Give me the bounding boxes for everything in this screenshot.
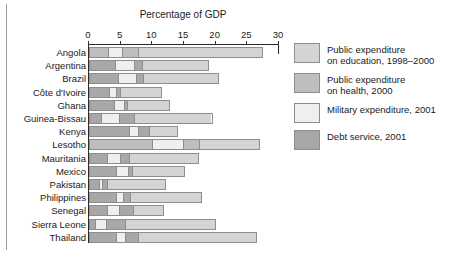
- stacked-bar: [89, 100, 170, 111]
- x-tick-mark-10: [151, 41, 152, 45]
- stacked-bar: [89, 60, 209, 71]
- bar-segment-debt: [90, 154, 108, 163]
- x-tick-mark-0: [88, 41, 89, 45]
- category-label-argentina: Argentina: [0, 60, 86, 71]
- bar-segment-health: [184, 140, 200, 149]
- x-tick-label-30: 30: [273, 29, 284, 40]
- bar-segment-debt: [90, 101, 115, 110]
- bar-segment-debt: [90, 74, 119, 83]
- bar-segment-debt: [90, 193, 117, 202]
- bar-segment-debt: [124, 193, 131, 202]
- bar-segment-debt: [90, 167, 117, 176]
- stacked-bar: [89, 87, 162, 98]
- bar-segment-education: [200, 140, 259, 149]
- x-tick-mark-5: [120, 41, 121, 45]
- category-label-sierra-leone: Sierra Leone: [0, 219, 86, 230]
- legend-item-military: Military expenditure, 2001: [294, 103, 454, 123]
- stacked-bar: [89, 192, 202, 203]
- category-label-kenya: Kenya: [0, 126, 86, 137]
- bar-segment-military: [117, 167, 129, 176]
- bar-segment-education: [143, 61, 208, 70]
- bar-segment-military: [108, 206, 119, 215]
- legend-swatch-education: [294, 43, 320, 63]
- bar-segment-military: [102, 114, 119, 123]
- bar-segment-debt: [126, 233, 139, 242]
- bar-segment-education: [139, 233, 255, 242]
- stacked-bar: [89, 113, 213, 124]
- stacked-bar: [89, 153, 199, 164]
- legend-swatch-military: [294, 103, 320, 123]
- category-label-c-te-d-ivoire: Côte d'Ivoire: [0, 87, 86, 98]
- chart-legend: Public expenditure on education, 1998–20…: [294, 43, 454, 157]
- category-label-guinea-bissau: Guinea-Bissau: [0, 113, 86, 124]
- bar-segment-military: [130, 127, 139, 136]
- legend-item-health: Public expenditure on health, 2000: [294, 73, 454, 96]
- bar-row: Senegal: [0, 204, 457, 217]
- stacked-bar: [89, 219, 216, 230]
- bar-segment-health: [90, 48, 109, 57]
- bar-row: Mexico: [0, 165, 457, 178]
- bar-segment-military: [96, 220, 107, 229]
- x-tick-label-15: 15: [178, 29, 189, 40]
- bar-segment-education: [134, 206, 164, 215]
- category-label-angola: Angola: [0, 47, 86, 58]
- bar-segment-debt: [90, 206, 108, 215]
- category-label-mexico: Mexico: [0, 166, 86, 177]
- stacked-bar: [89, 47, 263, 58]
- bar-segment-debt: [120, 114, 136, 123]
- stacked-bar: [89, 179, 166, 190]
- bar-segment-military: [117, 233, 126, 242]
- category-label-lesotho: Lesotho: [0, 139, 86, 150]
- bar-segment-education: [135, 114, 211, 123]
- stacked-bar: [89, 139, 260, 150]
- bar-segment-education: [128, 101, 169, 110]
- bar-row: Thailand: [0, 231, 457, 244]
- bar-segment-military: [153, 140, 184, 149]
- legend-swatch-health: [294, 73, 320, 93]
- bar-segment-education: [139, 48, 262, 57]
- bar-segment-education: [126, 220, 215, 229]
- x-tick-mark-20: [215, 41, 216, 45]
- bar-segment-debt: [90, 114, 102, 123]
- legend-label-debt: Debt service, 2001: [327, 130, 406, 142]
- legend-item-education: Public expenditure on education, 1998–20…: [294, 43, 454, 66]
- bar-segment-debt: [135, 61, 143, 70]
- x-tick-mark-25: [246, 41, 247, 45]
- bar-segment-education: [133, 167, 184, 176]
- stacked-bar: [89, 73, 219, 84]
- legend-item-debt: Debt service, 2001: [294, 130, 454, 150]
- stacked-bar: [89, 126, 178, 137]
- bar-segment-debt: [90, 61, 116, 70]
- legend-label-health: Public expenditure on health, 2000: [327, 73, 405, 96]
- bar-segment-debt: [121, 154, 130, 163]
- bar-segment-education: [130, 154, 198, 163]
- bar-segment-education: [144, 74, 218, 83]
- category-label-mauritania: Mauritania: [0, 153, 86, 164]
- bar-segment-education: [150, 127, 177, 136]
- category-label-philippines: Philippines: [0, 192, 86, 203]
- bar-segment-debt: [139, 127, 150, 136]
- bar-row: Philippines: [0, 191, 457, 204]
- x-tick-label-20: 20: [209, 29, 220, 40]
- legend-swatch-debt: [294, 130, 320, 150]
- bar-segment-debt: [90, 88, 110, 97]
- category-label-senegal: Senegal: [0, 205, 86, 216]
- bar-row: Sierra Leone: [0, 218, 457, 231]
- category-label-ghana: Ghana: [0, 100, 86, 111]
- category-label-pakistan: Pakistan: [0, 179, 86, 190]
- x-tick-label-5: 5: [117, 29, 122, 40]
- bar-segment-debt: [90, 180, 100, 189]
- bar-segment-military: [110, 88, 117, 97]
- legend-label-military: Military expenditure, 2001: [327, 103, 436, 115]
- stacked-bar: [89, 166, 185, 177]
- bar-segment-military: [115, 101, 124, 110]
- bar-segment-education: [121, 88, 161, 97]
- stacked-bar: [89, 232, 257, 243]
- legend-label-education: Public expenditure on education, 1998–20…: [327, 43, 434, 66]
- x-tick-label-25: 25: [241, 29, 252, 40]
- bar-segment-military: [109, 48, 123, 57]
- x-tick-mark-30: [278, 41, 279, 45]
- x-tick-label-0: 0: [85, 29, 90, 40]
- bar-segment-debt: [90, 233, 117, 242]
- bar-segment-health: [90, 140, 153, 149]
